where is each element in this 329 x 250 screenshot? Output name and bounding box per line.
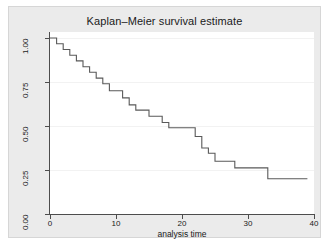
x-axis-title: analysis time — [50, 229, 314, 239]
graph-region: Kaplan–Meier survival estimate 1.00 0.75… — [8, 6, 321, 238]
km-survival-step-line — [50, 38, 307, 179]
y-tick-label-025: 0.25 — [21, 171, 30, 201]
y-tick-025 — [45, 170, 49, 171]
y-tick-label-075: 0.75 — [21, 83, 30, 113]
y-axis-line — [49, 32, 50, 215]
x-tick-label-10: 10 — [106, 219, 126, 228]
y-tick-1 — [45, 38, 49, 39]
survival-curve-svg — [50, 32, 314, 214]
y-tick-0 — [45, 214, 49, 215]
plot-region — [50, 32, 314, 214]
x-tick-label-30: 30 — [238, 219, 258, 228]
y-tick-label-1: 1.00 — [21, 39, 30, 69]
y-tick-label-0: 0.00 — [21, 215, 30, 245]
x-tick-label-0: 0 — [40, 219, 60, 228]
x-tick-label-20: 20 — [172, 219, 192, 228]
y-tick-050 — [45, 126, 49, 127]
y-tick-label-050: 0.50 — [21, 127, 30, 157]
x-tick-label-40: 40 — [304, 219, 324, 228]
chart-title: Kaplan–Meier survival estimate — [9, 15, 320, 27]
y-tick-075 — [45, 82, 49, 83]
screenshot-root: Kaplan–Meier survival estimate 1.00 0.75… — [0, 0, 329, 250]
